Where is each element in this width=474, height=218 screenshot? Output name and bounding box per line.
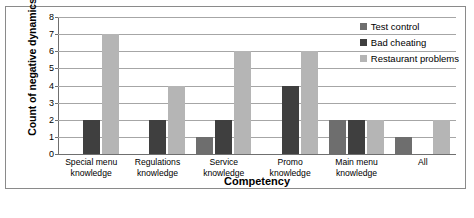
bar-slot <box>301 17 318 154</box>
bar <box>301 51 318 154</box>
bar-slot <box>215 17 232 154</box>
bar-slot <box>282 17 299 154</box>
bar <box>395 137 412 154</box>
bar-slot <box>64 17 81 154</box>
x-axis-title: Competency <box>58 175 456 187</box>
bar <box>102 34 119 154</box>
y-tick-mark <box>55 154 58 155</box>
legend-item: Bad cheating <box>360 37 459 48</box>
gridline <box>58 154 456 155</box>
bar-slot <box>168 17 185 154</box>
chart-legend: Test controlBad cheatingRestaurant probl… <box>360 21 459 64</box>
y-tick-label: 0 <box>49 149 54 159</box>
legend-label: Test control <box>371 21 420 32</box>
bar <box>433 120 450 154</box>
legend-item: Restaurant problems <box>360 53 459 64</box>
y-axis-title: Count of negative dynamics <box>26 0 38 137</box>
y-tick-label: 6 <box>49 46 54 56</box>
y-tick-label: 8 <box>49 12 54 22</box>
bar <box>168 86 185 155</box>
bar-slot <box>83 17 100 154</box>
bar-group <box>257 17 323 154</box>
legend-label: Bad cheating <box>371 37 426 48</box>
bar-slot <box>149 17 166 154</box>
bar <box>83 120 100 154</box>
legend-swatch-icon <box>360 39 367 46</box>
y-tick-label: 1 <box>49 132 54 142</box>
bar-slot <box>263 17 280 154</box>
legend-label: Restaurant problems <box>371 53 459 64</box>
bar-slot <box>329 17 346 154</box>
y-tick-label: 4 <box>49 81 54 91</box>
y-tick-label: 2 <box>49 115 54 125</box>
y-tick-label: 5 <box>49 63 54 73</box>
bar <box>282 86 299 155</box>
bar-slot <box>130 17 147 154</box>
bar-slot <box>196 17 213 154</box>
bar <box>196 137 213 154</box>
legend-swatch-icon <box>360 23 367 30</box>
legend-swatch-icon <box>360 55 367 62</box>
chart-figure: Count of negative dynamics 012345678 Spe… <box>5 6 466 189</box>
bar <box>215 120 232 154</box>
bar-group <box>191 17 257 154</box>
bar <box>367 120 384 154</box>
y-tick-label: 3 <box>49 98 54 108</box>
bar-slot <box>102 17 119 154</box>
bar-group <box>124 17 190 154</box>
bar-group <box>58 17 124 154</box>
bar <box>329 120 346 154</box>
legend-item: Test control <box>360 21 459 32</box>
bar <box>149 120 166 154</box>
bar-slot <box>234 17 251 154</box>
bar <box>348 120 365 154</box>
bar <box>234 51 251 154</box>
y-tick-label: 7 <box>49 29 54 39</box>
